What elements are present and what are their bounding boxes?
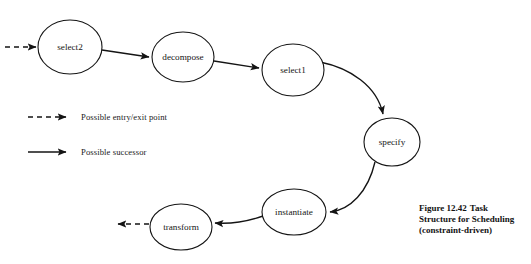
edge-select1-to-specify [320,62,383,114]
node-instantiate[interactable]: instantiate [262,189,326,235]
edge-specify-to-instantiate [330,162,375,212]
node-instantiate-label: instantiate [275,207,313,217]
figure-caption: Figure 12.42Task Structure for Schedulin… [419,203,523,237]
edge-decompose-to-select1 [214,61,259,68]
node-select2[interactable]: select2 [38,20,102,74]
node-specify[interactable]: specify [364,118,420,166]
node-select1-label: select1 [280,65,306,75]
node-transform[interactable]: transform [150,204,212,250]
legend-successor-label: Possible successor [81,147,147,157]
figure-caption-number: Figure 12.42 [419,203,467,213]
legend-entry-exit-label: Possible entry/exit point [81,112,167,122]
node-decompose[interactable]: decompose [152,32,214,82]
node-select1[interactable]: select1 [262,44,324,96]
node-decompose-label: decompose [162,52,203,62]
edge-select2-to-decompose [102,50,149,57]
edge-instantiate-to-transform [215,216,263,223]
node-specify-label: specify [379,137,406,147]
node-select2-label: select2 [57,42,83,52]
figure-container: select2 decompose select1 specify instan… [0,0,531,264]
node-transform-label: transform [163,222,199,232]
